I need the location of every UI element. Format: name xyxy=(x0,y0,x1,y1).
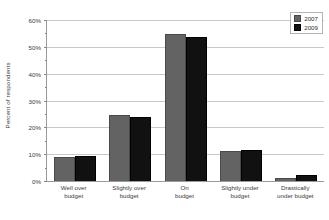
bar-2007-3 xyxy=(220,151,241,181)
x-axis-tick-label-line: budget xyxy=(102,192,155,200)
legend: 20072009 xyxy=(290,12,323,34)
y-axis-title-text: Percent of respondents xyxy=(4,62,11,128)
x-axis-tick-label-line: Drastically xyxy=(269,184,322,192)
x-axis-tick-labels: Well overbudgetSlightly overbudgetOnbudg… xyxy=(46,184,323,200)
bar-2009-1 xyxy=(130,117,151,181)
y-axis-tick-label: 20% xyxy=(29,124,41,131)
x-axis-tick-label: Slightly underbudget xyxy=(212,184,267,200)
plot-area xyxy=(46,20,324,182)
bar-group xyxy=(47,20,102,181)
bar-chart: Percent of respondents 0%10%20%30%40%50%… xyxy=(0,0,329,220)
legend-swatch-icon xyxy=(294,24,301,31)
bar-group xyxy=(269,20,324,181)
x-axis-tick-label-line: budget xyxy=(213,192,266,200)
legend-swatch-icon xyxy=(294,15,301,22)
x-axis-tick-label-line: Slightly under xyxy=(213,184,266,192)
y-axis-tick-label: 50% xyxy=(29,43,41,50)
x-axis-tick-label-line: under budget xyxy=(269,192,322,200)
x-axis-tick-label-line: Well over xyxy=(47,184,100,192)
x-axis-tick-label: Drasticallyunder budget xyxy=(268,184,323,200)
bar-2007-4 xyxy=(275,178,296,181)
y-axis-tick-label: 40% xyxy=(29,70,41,77)
x-axis-tick-label-line: On xyxy=(158,184,211,192)
bar-2009-0 xyxy=(75,156,96,181)
y-axis-tickmark xyxy=(44,181,47,182)
bar-group xyxy=(213,20,268,181)
bar-2007-1 xyxy=(109,115,130,181)
y-axis-tick-label: 60% xyxy=(29,17,41,24)
y-axis-tick-labels: 0%10%20%30%40%50%60% xyxy=(14,20,44,181)
bars-layer xyxy=(47,20,324,181)
y-axis-tick-label: 30% xyxy=(29,97,41,104)
legend-label: 2009 xyxy=(304,24,318,31)
y-axis-tick-label: 10% xyxy=(29,151,41,158)
bar-group xyxy=(158,20,213,181)
x-axis-tick-label: Slightly overbudget xyxy=(101,184,156,200)
bar-group xyxy=(102,20,157,181)
x-axis-tick-label-line: budget xyxy=(47,192,100,200)
x-axis-tick-label: Well overbudget xyxy=(46,184,101,200)
bar-2007-0 xyxy=(54,157,75,181)
bar-2007-2 xyxy=(165,34,186,181)
legend-item-2007: 2007 xyxy=(294,15,318,22)
x-axis-tick-label-line: budget xyxy=(158,192,211,200)
y-axis-tick-label: 0% xyxy=(32,178,41,185)
bar-2009-2 xyxy=(186,37,207,181)
x-axis-tick-label-line: Slightly over xyxy=(102,184,155,192)
x-axis-tick-label: Onbudget xyxy=(157,184,212,200)
bar-2009-4 xyxy=(296,175,317,181)
y-axis-title: Percent of respondents xyxy=(0,0,14,190)
legend-item-2009: 2009 xyxy=(294,24,318,31)
bar-2009-3 xyxy=(241,150,262,181)
legend-label: 2007 xyxy=(304,15,318,22)
